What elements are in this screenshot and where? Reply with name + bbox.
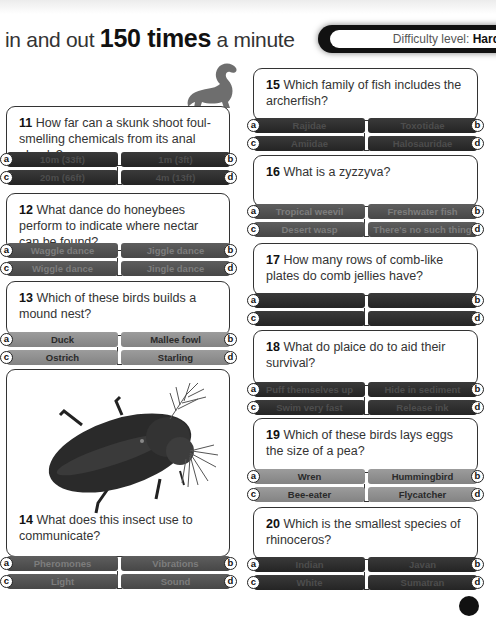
option-b[interactable] xyxy=(368,293,477,308)
option-d[interactable]: Jingle dance xyxy=(121,261,230,276)
badge-a: a xyxy=(0,557,13,570)
option-a[interactable] xyxy=(254,293,365,308)
badge-a: a xyxy=(0,244,13,257)
answer-options-12: Waggle dance Jiggle dance Wiggle dance J… xyxy=(1,242,236,276)
option-c[interactable]: 20m (66ft) xyxy=(7,170,118,185)
difficulty-label: Difficulty level: Hard xyxy=(393,30,496,48)
option-c[interactable]: Desert wasp xyxy=(254,222,365,237)
question-text: 14 What does this insect use to communic… xyxy=(19,512,219,544)
answer-options-13: Duck Mallee fowl Ostrich Starling a b c … xyxy=(1,331,236,365)
answer-options-15: Rajidae Toxotidae Amiidae Halosauridae a… xyxy=(248,117,483,151)
badge-b: b xyxy=(471,558,484,571)
option-b[interactable]: Mallee fowl xyxy=(121,332,230,347)
option-c[interactable]: Amiidae xyxy=(254,136,365,151)
answer-options-19: Wren Hummingbird Bee-eater Flycatcher a … xyxy=(248,468,483,502)
badge-b: b xyxy=(224,153,237,166)
option-b[interactable]: Toxotidae xyxy=(368,118,477,133)
answer-options-17: a b c d xyxy=(248,292,483,326)
option-a[interactable]: Tropical weevil xyxy=(254,204,365,219)
option-c[interactable]: Ostrich xyxy=(7,350,118,365)
question-text: 17 How many rows of comb-like plates do … xyxy=(266,252,467,284)
question-text: 18 What do plaice do to aid their surviv… xyxy=(266,339,467,371)
difficulty-value: Hard xyxy=(473,32,496,46)
question-card-17: 17 How many rows of comb-like plates do … xyxy=(253,243,478,296)
question-card-20: 20 Which is the smallest species of rhin… xyxy=(253,507,478,560)
option-d[interactable] xyxy=(368,311,477,326)
badge-c: c xyxy=(247,576,260,589)
question-card-19: 19 Which of these birds lays eggs the si… xyxy=(253,418,478,473)
badge-d: d xyxy=(471,401,484,414)
option-a[interactable]: Wren xyxy=(254,469,365,484)
option-d[interactable]: Sound xyxy=(121,574,230,589)
badge-d: d xyxy=(471,312,484,325)
badge-c: c xyxy=(247,137,260,150)
option-a[interactable]: Rajidae xyxy=(254,118,365,133)
option-d[interactable]: Flycatcher xyxy=(368,487,477,502)
option-d[interactable]: Starling xyxy=(121,350,230,365)
option-a[interactable]: 10m (33ft) xyxy=(7,152,118,167)
difficulty-banner: Difficulty level: Hard xyxy=(318,25,496,53)
answer-options-20: Indian Javan White Sumatran a b c d xyxy=(248,556,483,590)
option-d[interactable]: Release ink xyxy=(368,400,477,415)
option-c[interactable]: White xyxy=(254,575,365,590)
option-c[interactable]: Wiggle dance xyxy=(7,261,118,276)
top-shade xyxy=(0,0,496,14)
badge-a: a xyxy=(247,119,260,132)
page-marker-dot xyxy=(459,596,479,616)
option-b[interactable]: Vibrations xyxy=(121,556,230,571)
badge-b: b xyxy=(224,333,237,346)
option-c[interactable] xyxy=(254,311,365,326)
badge-d: d xyxy=(471,223,484,236)
question-card-13: 13 Which of these birds builds a mound n… xyxy=(6,281,230,336)
badge-b: b xyxy=(224,557,237,570)
option-b[interactable]: 1m (3ft) xyxy=(121,152,230,167)
answer-options-11: 10m (33ft) 1m (3ft) 20m (66ft) 4m (13ft)… xyxy=(1,151,236,185)
question-text: 13 Which of these birds builds a mound n… xyxy=(19,290,219,322)
option-a[interactable]: Duck xyxy=(7,332,118,347)
option-a[interactable]: Indian xyxy=(254,557,365,572)
option-b[interactable]: Hummingbird xyxy=(368,469,477,484)
insect-beetle-image xyxy=(20,375,220,515)
badge-b: b xyxy=(471,470,484,483)
skunk-silhouette-icon xyxy=(178,62,248,110)
badge-c: c xyxy=(247,223,260,236)
option-b[interactable]: Javan xyxy=(368,557,477,572)
option-a[interactable]: Puff themselves up xyxy=(254,382,365,397)
option-c[interactable]: Swim very fast xyxy=(254,400,365,415)
badge-d: d xyxy=(471,576,484,589)
badge-c: c xyxy=(247,488,260,501)
badge-b: b xyxy=(224,244,237,257)
option-d[interactable]: Halosauridae xyxy=(368,136,477,151)
page-title: in and out 150 times a minute xyxy=(5,24,295,53)
option-b[interactable]: Jiggle dance xyxy=(121,243,230,258)
question-text: 19 Which of these birds lays eggs the si… xyxy=(266,427,467,459)
option-c[interactable]: Bee-eater xyxy=(254,487,365,502)
answer-options-14: Pheromones Vibrations Light Sound a b c … xyxy=(1,555,236,589)
badge-a: a xyxy=(247,383,260,396)
option-d[interactable]: 4m (13ft) xyxy=(121,170,230,185)
badge-d: d xyxy=(471,488,484,501)
option-b[interactable]: Freshwater fish xyxy=(368,204,477,219)
option-c[interactable]: Light xyxy=(7,574,118,589)
badge-d: d xyxy=(471,137,484,150)
question-card-18: 18 What do plaice do to aid their surviv… xyxy=(253,330,478,386)
badge-a: a xyxy=(247,205,260,218)
badge-a: a xyxy=(247,470,260,483)
option-d[interactable]: Sumatran xyxy=(368,575,477,590)
answer-options-16: Tropical weevil Freshwater fish Desert w… xyxy=(248,203,483,237)
badge-d: d xyxy=(224,575,237,588)
badge-a: a xyxy=(247,558,260,571)
badge-a: a xyxy=(247,294,260,307)
option-d[interactable]: There's no such thing xyxy=(368,222,477,237)
question-text: 16 What is a zyzzyva? xyxy=(266,164,467,180)
badge-b: b xyxy=(471,294,484,307)
badge-c: c xyxy=(0,171,13,184)
question-card-16: 16 What is a zyzzyva? xyxy=(253,155,478,207)
option-a[interactable]: Pheromones xyxy=(7,556,118,571)
option-b[interactable]: Hide in sediment xyxy=(368,382,477,397)
badge-b: b xyxy=(471,383,484,396)
badge-c: c xyxy=(0,262,13,275)
badge-b: b xyxy=(471,119,484,132)
option-a[interactable]: Waggle dance xyxy=(7,243,118,258)
badge-a: a xyxy=(0,333,13,346)
